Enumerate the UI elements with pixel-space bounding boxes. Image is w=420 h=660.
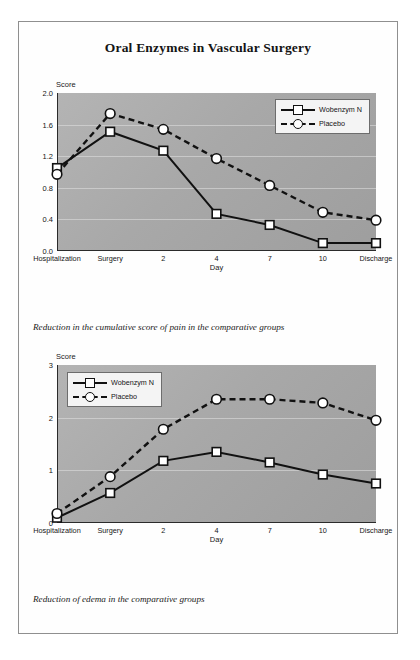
data-point-marker (265, 221, 274, 230)
legend-label-placebo: Placebo (319, 119, 345, 128)
chart-plot-area-edema: 0123 HospitalizationSurgery24710Discharg… (57, 365, 376, 523)
series-line-wobenzym-n (57, 132, 376, 243)
legend-label-wobenzym: Wobenzym N (319, 105, 362, 114)
x-axis-tick-label: Surgery (97, 254, 123, 263)
x-axis-tick-label: 2 (161, 254, 165, 263)
data-point-marker (159, 125, 169, 135)
y-axis-tick-label: 0.4 (43, 215, 53, 224)
data-point-marker (319, 239, 328, 248)
data-point-marker (318, 207, 328, 217)
figure-edema-score: Score 0123 HospitalizationSurgery24710Di… (19, 352, 397, 587)
x-axis-tick-label: Hospitalization (33, 254, 80, 263)
data-point-marker (265, 458, 274, 467)
chart-legend-edema: Wobenzym N Placebo (67, 372, 162, 407)
data-point-marker (265, 181, 275, 191)
y-axis-tick-label: 1 (49, 466, 53, 475)
x-axis-title: Day (210, 263, 223, 272)
legend-key-square-icon (281, 104, 315, 115)
legend-item-wobenzym: Wobenzym N (73, 377, 154, 388)
x-axis-tick-label: 7 (268, 526, 272, 535)
x-axis-tick-label: 4 (214, 254, 218, 263)
series-line-wobenzym-n (57, 452, 376, 518)
legend-key-circle-icon (281, 118, 315, 129)
chart-plot-area-pain: 0.00.40.81.21.62.0 HospitalizationSurger… (57, 93, 376, 251)
x-axis-tick-label: 10 (319, 526, 327, 535)
legend-item-placebo: Placebo (73, 391, 154, 402)
data-point-marker (371, 416, 381, 426)
y-axis-tick-label: 2 (49, 413, 53, 422)
y-axis-tick-label: 3 (49, 361, 53, 370)
data-point-marker (105, 472, 115, 482)
data-point-marker (52, 509, 62, 519)
x-axis-tick-label: Discharge (360, 526, 393, 535)
x-axis-tick-label: Hospitalization (33, 526, 80, 535)
data-point-marker (318, 398, 328, 408)
y-axis-title: Score (56, 80, 76, 89)
data-point-marker (319, 470, 328, 479)
y-axis-tick-label: 0.8 (43, 183, 53, 192)
data-point-marker (212, 448, 221, 457)
x-axis-title: Day (210, 535, 223, 544)
data-point-marker (159, 424, 169, 434)
page-title: Oral Enzymes in Vascular Surgery (19, 40, 397, 56)
figure-caption-pain: Reduction in the cumulative score of pai… (33, 322, 284, 332)
data-point-marker (372, 239, 381, 248)
data-point-marker (105, 109, 115, 119)
legend-key-square-icon (73, 377, 107, 388)
data-point-marker (372, 479, 381, 488)
data-point-marker (212, 210, 221, 219)
data-point-marker (212, 394, 222, 404)
y-axis-tick-label: 1.2 (43, 152, 53, 161)
x-axis-tick-label: Discharge (360, 254, 393, 263)
legend-item-placebo: Placebo (281, 118, 362, 129)
x-axis-tick-label: 10 (319, 254, 327, 263)
data-point-marker (106, 127, 115, 136)
legend-label-placebo: Placebo (111, 392, 137, 401)
y-axis-tick-label: 1.6 (43, 120, 53, 129)
data-point-marker (265, 394, 275, 404)
data-point-marker (212, 154, 222, 164)
y-axis-tick-label: 2.0 (43, 89, 53, 98)
legend-key-circle-icon (73, 391, 107, 402)
x-axis-tick-label: 2 (161, 526, 165, 535)
chart-legend-pain: Wobenzym N Placebo (275, 99, 370, 134)
data-point-marker (159, 146, 168, 155)
data-point-marker (106, 489, 115, 498)
figure-pain-score: Score 0.00.40.81.21.62.0 Hospitalization… (19, 80, 397, 315)
x-axis-tick-label: 7 (268, 254, 272, 263)
data-point-marker (159, 457, 168, 466)
legend-label-wobenzym: Wobenzym N (111, 378, 154, 387)
y-axis-title: Score (56, 352, 76, 361)
document-page: Oral Enzymes in Vascular Surgery Score 0… (18, 21, 398, 634)
data-point-marker (371, 215, 381, 225)
x-axis-tick-label: Surgery (97, 526, 123, 535)
legend-item-wobenzym: Wobenzym N (281, 104, 362, 115)
figure-caption-edema: Reduction of edema in the comparative gr… (33, 594, 205, 604)
x-axis-tick-label: 4 (214, 526, 218, 535)
data-point-marker (52, 170, 62, 180)
